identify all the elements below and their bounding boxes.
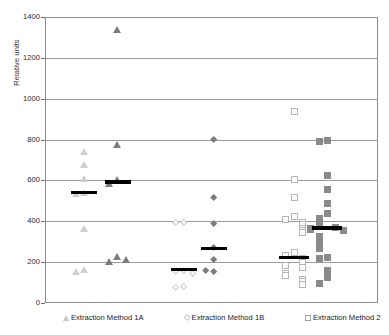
data-point-2-filled bbox=[316, 255, 323, 262]
data-point-2-filled bbox=[316, 138, 323, 145]
y-tick-label: 600 bbox=[10, 176, 40, 184]
data-point-2-filled bbox=[324, 267, 331, 274]
data-point-2-open bbox=[282, 262, 289, 269]
mean-bar-2-filled bbox=[312, 226, 342, 229]
data-point-1A-filled bbox=[122, 256, 130, 263]
y-tick-label: 400 bbox=[10, 217, 40, 225]
y-tick-label: 1400 bbox=[10, 13, 40, 21]
chart-legend: Extraction Method 1AExtraction Method 1B… bbox=[45, 310, 378, 328]
data-point-2-open bbox=[299, 264, 306, 271]
gridline bbox=[46, 180, 377, 181]
data-point-2-filled bbox=[324, 172, 331, 179]
data-point-1B-filled bbox=[210, 267, 218, 275]
data-point-2-filled bbox=[324, 274, 331, 281]
data-point-1A-open bbox=[80, 161, 88, 168]
mean-bar-1A-filled bbox=[105, 180, 131, 183]
data-point-1B-open bbox=[172, 219, 180, 227]
data-point-1B-open bbox=[172, 284, 180, 292]
data-point-2-filled bbox=[324, 200, 331, 207]
y-tick-label: 800 bbox=[10, 136, 40, 144]
data-point-1A-open bbox=[72, 268, 80, 275]
triangle-icon bbox=[63, 315, 69, 321]
y-axis-tick-labels: 0200400600800100012001400 bbox=[8, 0, 40, 335]
data-point-1A-filled bbox=[105, 258, 113, 265]
gridline bbox=[46, 58, 377, 59]
data-point-1B-filled bbox=[210, 136, 218, 144]
data-point-2-filled bbox=[324, 254, 331, 261]
data-point-2-open bbox=[291, 176, 298, 183]
legend-label: Extraction Method 1B bbox=[192, 313, 265, 322]
mean-bar-1B-open bbox=[171, 268, 197, 271]
data-point-2-filled bbox=[316, 280, 323, 287]
data-point-1B-open bbox=[180, 283, 188, 291]
data-point-1A-filled bbox=[113, 26, 121, 33]
data-point-1A-open bbox=[80, 175, 88, 182]
y-tick-mark bbox=[41, 303, 45, 304]
data-point-2-filled bbox=[324, 137, 331, 144]
data-point-1B-open bbox=[180, 218, 188, 226]
y-tick-label: 1000 bbox=[10, 95, 40, 103]
legend-item-2[interactable]: Extraction Method 1B bbox=[185, 313, 264, 322]
mean-bar-2-open bbox=[279, 256, 309, 259]
data-point-1A-open bbox=[80, 266, 88, 273]
legend-label: Extraction Method 2 bbox=[313, 313, 381, 322]
data-point-2-open bbox=[291, 194, 298, 201]
data-point-2-open bbox=[282, 272, 289, 279]
data-point-2-open bbox=[291, 213, 298, 220]
mean-bar-1A-open bbox=[71, 191, 97, 194]
data-point-2-open bbox=[282, 216, 289, 223]
data-point-2-open bbox=[299, 281, 306, 288]
y-tick-label: 200 bbox=[10, 258, 40, 266]
legend-label: Extraction Method 1A bbox=[71, 313, 144, 322]
data-point-1A-open bbox=[80, 148, 88, 155]
chart-root: Relative units 0200400600800100012001400… bbox=[0, 0, 389, 335]
data-point-1A-filled bbox=[113, 253, 121, 260]
data-point-2-filled bbox=[324, 186, 331, 193]
legend-item-3[interactable]: Extraction Method 2 bbox=[305, 313, 381, 322]
legend-item-1[interactable]: Extraction Method 1A bbox=[63, 313, 144, 322]
y-tick-label: 1200 bbox=[10, 54, 40, 62]
data-point-2-filled bbox=[316, 245, 323, 252]
data-point-1A-filled bbox=[113, 141, 121, 148]
square-icon bbox=[305, 315, 311, 321]
data-point-2-open bbox=[291, 108, 298, 115]
data-point-1B-filled bbox=[210, 194, 218, 202]
gridline bbox=[46, 99, 377, 100]
diamond-icon bbox=[184, 314, 190, 320]
y-tick-label: 0 bbox=[10, 299, 40, 307]
plot-area bbox=[45, 17, 378, 303]
mean-bar-1B-filled bbox=[201, 247, 227, 250]
data-point-1B-filled bbox=[202, 266, 210, 274]
data-point-1A-open bbox=[80, 225, 88, 232]
data-point-2-filled bbox=[324, 210, 331, 217]
data-point-2-open bbox=[299, 229, 306, 236]
